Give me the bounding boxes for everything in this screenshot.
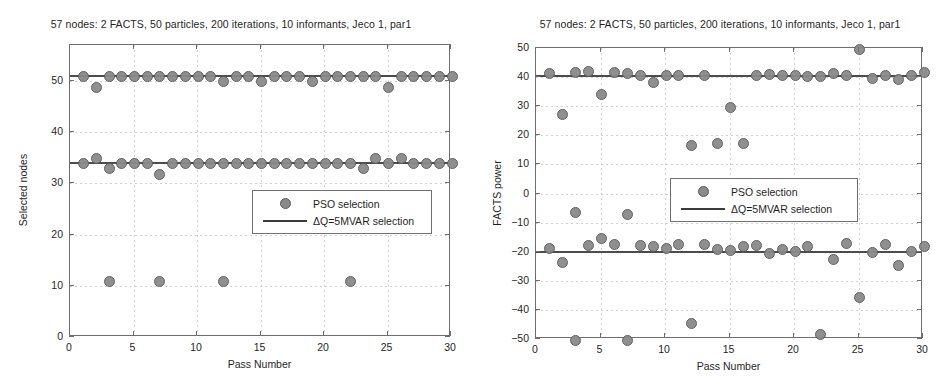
legend-line-icon [677, 208, 729, 210]
gridline-horizontal [536, 164, 921, 165]
x-tick [387, 331, 388, 336]
x-tick-label: 0 [66, 341, 72, 353]
y-tick-label: 30 [503, 99, 529, 111]
x-tick [858, 333, 859, 338]
y-tick-label: 40 [37, 125, 63, 137]
y-tick-right [917, 163, 922, 164]
x-tick-label: 30 [916, 343, 928, 355]
data-point [358, 163, 369, 174]
y-tick-right [917, 338, 922, 339]
y-axis-label: FACTS power [491, 160, 503, 225]
chart-title-right: 57 nodes: 2 FACTS, 50 particles, 200 ite… [483, 18, 949, 30]
y-tick [535, 280, 540, 281]
y-tick [535, 251, 540, 252]
y-tick [535, 338, 540, 339]
y-tick-right [445, 182, 450, 183]
data-point [661, 243, 672, 254]
legend-row-line: ΔQ=5MVAR selection [259, 212, 423, 229]
data-point [661, 70, 672, 81]
data-point [648, 241, 659, 252]
data-point [906, 70, 917, 81]
legend-label-scatter: PSO selection [729, 186, 798, 198]
x-tick [729, 333, 730, 338]
y-tick-label: 10 [37, 279, 63, 291]
data-point [154, 169, 165, 180]
legend-row-scatter: PSO selection [259, 195, 423, 212]
data-point [867, 247, 878, 258]
x-tick [922, 333, 923, 338]
data-point [447, 158, 458, 169]
data-point [345, 71, 356, 82]
x-tick-top [793, 47, 794, 52]
data-point [396, 153, 407, 164]
data-point [104, 163, 115, 174]
data-point [790, 70, 801, 81]
legend-row-line: ΔQ=5MVAR selection [677, 200, 849, 217]
data-point [358, 71, 369, 82]
y-tick-label: 30 [37, 176, 63, 188]
data-point [815, 329, 826, 340]
gridline-vertical [197, 45, 198, 335]
y-tick [535, 76, 540, 77]
x-tick-label: 30 [444, 341, 456, 353]
y-tick-label: −40 [503, 303, 529, 315]
y-tick-right [445, 80, 450, 81]
data-point [841, 70, 852, 81]
data-point [231, 71, 242, 82]
gridline-horizontal [536, 223, 921, 224]
x-tick [664, 333, 665, 338]
x-tick [793, 333, 794, 338]
data-point [583, 240, 594, 251]
data-point [91, 153, 102, 164]
legend-right: PSO selection ΔQ=5MVAR selection [670, 178, 858, 222]
data-point [218, 276, 229, 287]
x-tick-top [729, 47, 730, 52]
data-point [91, 82, 102, 93]
y-tick-right [445, 285, 450, 286]
x-tick-top [600, 47, 601, 52]
y-tick [69, 234, 74, 235]
data-point [635, 70, 646, 81]
gridline-horizontal [70, 132, 449, 133]
legend-label-line: ΔQ=5MVAR selection [311, 215, 414, 227]
legend-row-scatter: PSO selection [677, 183, 849, 200]
data-point [104, 276, 115, 287]
data-point [841, 238, 852, 249]
gridline-horizontal [536, 135, 921, 136]
data-point [867, 73, 878, 84]
legend-label-line: ΔQ=5MVAR selection [729, 203, 832, 215]
legend-marker-icon [259, 198, 311, 209]
x-tick-label: 5 [597, 343, 603, 355]
x-tick [260, 331, 261, 336]
y-tick [535, 193, 540, 194]
data-point [635, 240, 646, 251]
y-tick-label: 50 [503, 41, 529, 53]
y-tick-right [445, 131, 450, 132]
data-point [180, 71, 191, 82]
data-point [434, 71, 445, 82]
data-point [880, 70, 891, 81]
data-point [777, 70, 788, 81]
reference-line [536, 75, 921, 77]
data-point [802, 71, 813, 82]
data-point [622, 68, 633, 79]
gridline-vertical [665, 48, 666, 337]
data-point [854, 44, 865, 55]
y-tick-label: 10 [503, 157, 529, 169]
figure-canvas: 57 nodes: 2 FACTS, 50 particles, 200 ite… [0, 0, 949, 388]
data-point [269, 158, 280, 169]
x-tick-top [922, 47, 923, 52]
x-tick [133, 331, 134, 336]
data-point [383, 82, 394, 93]
legend-marker-icon [677, 186, 729, 197]
data-point [738, 138, 749, 149]
x-tick-label: 20 [317, 341, 329, 353]
y-tick-label: 20 [503, 128, 529, 140]
data-point [231, 158, 242, 169]
gridline-horizontal [70, 286, 449, 287]
x-tick-top [323, 44, 324, 49]
x-tick [196, 331, 197, 336]
y-tick-right [917, 251, 922, 252]
y-tick [69, 182, 74, 183]
y-tick-label: 50 [37, 74, 63, 86]
